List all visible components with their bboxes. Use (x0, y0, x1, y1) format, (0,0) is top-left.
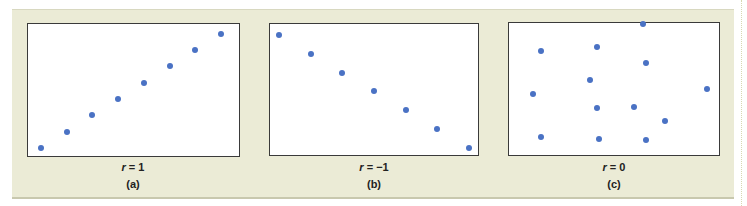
data-point (631, 104, 637, 110)
data-point (403, 107, 409, 113)
data-point (643, 137, 649, 143)
correlation-label-a: r = 1 (73, 161, 193, 173)
data-point (538, 134, 544, 140)
r-value: = 1 (129, 161, 145, 173)
data-point (594, 105, 600, 111)
data-point (276, 32, 282, 38)
data-point (466, 145, 472, 151)
data-point (64, 129, 70, 135)
data-point (192, 47, 198, 53)
panel-label-a: (a) (103, 178, 163, 190)
data-point (308, 51, 314, 57)
data-point (538, 48, 544, 54)
correlation-label-b: r = −1 (314, 161, 434, 173)
r-symbol: r (603, 161, 607, 173)
scatter-plot-b (269, 23, 479, 156)
data-point (141, 80, 147, 86)
correlation-label-c: r = 0 (554, 161, 674, 173)
data-point (115, 96, 121, 102)
data-point (704, 86, 710, 92)
data-point (596, 136, 602, 142)
r-value: = −1 (367, 161, 389, 173)
data-point (640, 21, 646, 27)
scatter-plot-a (27, 23, 240, 157)
data-point (434, 126, 440, 132)
panel-label-b: (b) (344, 178, 404, 190)
r-symbol: r (359, 161, 363, 173)
data-point (38, 145, 44, 151)
r-value: = 0 (610, 161, 626, 173)
panel-label-c: (c) (584, 178, 644, 190)
data-point (89, 112, 95, 118)
page-margin-rule (741, 0, 742, 206)
data-point (371, 88, 377, 94)
data-point (339, 70, 345, 76)
data-point (662, 118, 668, 124)
data-point (643, 60, 649, 66)
data-point (218, 31, 224, 37)
data-point (167, 63, 173, 69)
r-symbol: r (122, 161, 126, 173)
data-point (530, 91, 536, 97)
data-point (587, 77, 593, 83)
scatter-plot-c (508, 22, 720, 156)
data-point (594, 44, 600, 50)
